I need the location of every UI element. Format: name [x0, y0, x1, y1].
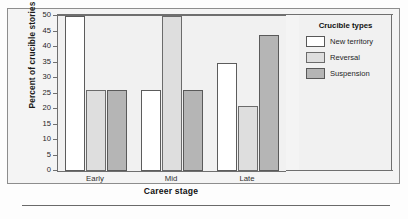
bar-new-territory-early[interactable]: [65, 16, 85, 171]
y-tick-label: 50: [43, 10, 51, 19]
white-swatch: [306, 36, 325, 47]
legend-entry-label: Reversal: [330, 53, 360, 62]
y-tick-label: 40: [43, 41, 51, 50]
y-axis-tick: 5: [0, 155, 57, 156]
legend: Crucible types New territoryReversalSusp…: [299, 15, 392, 170]
y-axis-tick: 20: [0, 108, 57, 109]
legend-title: Crucible types: [299, 21, 392, 30]
y-tick-label: 5: [47, 150, 51, 159]
bar-reversal-late[interactable]: [238, 106, 258, 171]
y-axis-tick: 10: [0, 139, 57, 140]
bar-suspension-early[interactable]: [107, 90, 127, 171]
y-axis-tick: 0: [0, 170, 57, 171]
y-axis-tick: 35: [0, 62, 57, 63]
y-tick-label: 45: [43, 26, 51, 35]
bar-reversal-mid[interactable]: [162, 16, 182, 171]
dark-gray-swatch: [306, 68, 325, 79]
y-axis-title: Percent of crucible stories: [27, 0, 37, 135]
legend-entry[interactable]: Reversal: [306, 51, 360, 64]
x-tick-label: Early: [57, 174, 133, 183]
legend-entry-label: Suspension: [330, 69, 370, 78]
bar-new-territory-mid[interactable]: [141, 90, 161, 171]
y-tick-label: 35: [43, 57, 51, 66]
y-tick-label: 20: [43, 103, 51, 112]
x-tick-label: Late: [209, 174, 285, 183]
figure: Percent of crucible stories 504540353025…: [0, 0, 408, 219]
x-tick-label: Mid: [133, 174, 209, 183]
bar-group: [210, 16, 286, 171]
y-tick-label: 10: [43, 134, 51, 143]
y-tick-label: 30: [43, 72, 51, 81]
light-gray-swatch: [306, 52, 325, 63]
legend-entry-label: New territory: [330, 37, 373, 46]
bar-new-territory-late[interactable]: [217, 63, 237, 172]
bar-suspension-late[interactable]: [259, 35, 279, 171]
y-axis-tick: 25: [0, 93, 57, 94]
y-axis-tick: 50: [0, 15, 57, 16]
y-axis-tick: 30: [0, 77, 57, 78]
bar-suspension-mid[interactable]: [183, 90, 203, 171]
y-tick-label: 15: [43, 119, 51, 128]
legend-entry[interactable]: New territory: [306, 35, 373, 48]
footer-divider: [22, 205, 390, 206]
y-axis-tick: 15: [0, 124, 57, 125]
plot-area: [57, 15, 286, 172]
legend-entry[interactable]: Suspension: [306, 67, 370, 80]
bar-group: [134, 16, 210, 171]
x-axis-title: Career stage: [57, 186, 285, 196]
y-axis-tick: 45: [0, 31, 57, 32]
bar-group: [58, 16, 134, 171]
y-tick-label: 25: [43, 88, 51, 97]
y-axis-tick: 40: [0, 46, 57, 47]
bar-reversal-early[interactable]: [86, 90, 106, 171]
y-tick-label: 0: [47, 165, 51, 174]
